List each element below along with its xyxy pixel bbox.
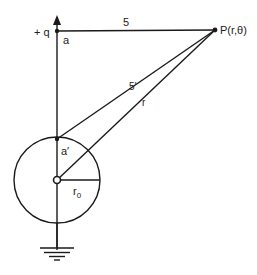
charge-label: + q [34,26,50,38]
axis-arrow-icon [53,15,61,25]
field-point-P [213,28,218,33]
line-r [57,30,215,180]
distance-r-label: r [142,97,146,108]
image-charge-diagram: + q a 5 P(r,θ) 5′ r a′ r0 [0,0,257,275]
image-charge [55,137,59,141]
distance-s-label: 5 [123,16,129,28]
distance-s-prime-label: 5′ [129,81,137,92]
point-P-label: P(r,θ) [220,24,247,36]
charge-distance-label: a [63,34,70,46]
sphere-center-marker [54,177,61,184]
radius-label: r0 [73,185,82,200]
point-charge [55,29,59,33]
line-s [57,30,215,31]
image-distance-label: a′ [61,145,69,157]
